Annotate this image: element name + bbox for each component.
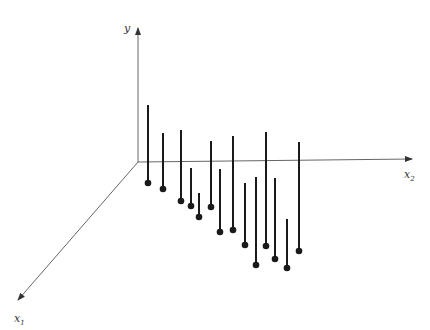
stem [145,105,152,186]
stem [178,130,185,204]
stem [188,168,195,209]
stem [196,193,203,220]
stem-base-dot [230,227,237,234]
stem-base-dot [196,214,203,221]
stem [217,169,224,235]
stem-base-dot [208,204,215,211]
stem-plot-3d: y x2 x1 [0,0,430,330]
stem [284,219,291,271]
stem-base-dot [145,180,152,187]
axes [18,28,412,300]
stem [208,141,215,210]
stem [296,142,303,254]
x2-axis [138,159,412,162]
stem [263,132,270,249]
stems [145,105,303,271]
stem [160,133,167,192]
stem [272,178,279,262]
stem-base-dot [178,198,185,205]
stem [242,183,249,248]
stem-base-dot [242,242,249,249]
stem-base-dot [296,248,303,255]
x1-axis [18,162,138,300]
stem-base-dot [160,186,167,193]
x1-axis-label: x1 [14,312,25,327]
stem [253,177,260,268]
stem-base-dot [263,243,270,250]
stem-base-dot [284,265,291,272]
y-axis-label: y [123,22,131,35]
stem-base-dot [188,203,195,210]
stem-base-dot [217,229,224,236]
stem-base-dot [272,256,279,263]
stem-base-dot [253,262,260,269]
x2-axis-label: x2 [404,168,415,183]
stem [230,136,237,233]
